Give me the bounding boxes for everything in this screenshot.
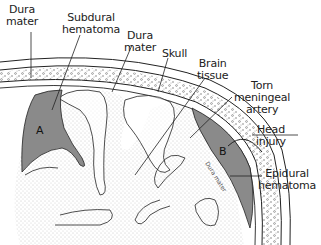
label-head-injury: Head injury [256,124,286,148]
label-dura-mater-center: Dura mater [124,30,156,54]
region-a-label: A [36,124,44,137]
label-brain-tissue: Brain tissue [197,58,228,82]
label-dura-mater-left: Dura mater [6,4,38,28]
label-epidural-hematoma: Epidural hematoma [258,168,316,192]
label-torn-meningeal-artery: Torn meningeal artery [234,80,290,116]
label-subdural-hematoma: Subdural hematoma [62,12,120,36]
label-skull: Skull [162,48,187,60]
region-b-label: B [219,145,227,158]
hematoma-diagram: Dura mater Subdural hematoma Dura mater … [0,0,321,245]
